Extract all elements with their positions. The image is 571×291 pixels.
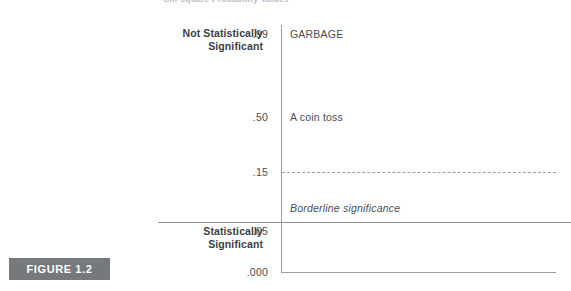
annotation-coin-toss: A coin toss bbox=[290, 111, 343, 123]
baseline-axis-line bbox=[281, 272, 556, 273]
reference-line-solid-05 bbox=[158, 222, 571, 223]
reference-line-dashed-15 bbox=[282, 172, 556, 173]
tick-label-05: .05 bbox=[228, 225, 268, 237]
figure-container: Chi-square Probability Values Not Statis… bbox=[0, 0, 571, 291]
tick-label-15: .15 bbox=[228, 166, 268, 178]
annotation-borderline: Borderline significance bbox=[290, 202, 400, 214]
tick-label-50: .50 bbox=[228, 111, 268, 123]
tick-label-000: .000 bbox=[228, 266, 268, 278]
region-label-not-significant-line2: Significant bbox=[208, 40, 263, 52]
figure-number-badge: FIGURE 1.2 bbox=[9, 258, 110, 280]
figure-number-label: FIGURE 1.2 bbox=[27, 263, 93, 275]
region-label-significant-line2: Significant bbox=[208, 238, 263, 250]
tick-label-99: .99 bbox=[228, 28, 268, 40]
figure-top-caption: Chi-square Probability Values bbox=[163, 0, 289, 4]
vertical-axis-line bbox=[281, 25, 282, 273]
annotation-garbage: GARBAGE bbox=[290, 28, 343, 40]
